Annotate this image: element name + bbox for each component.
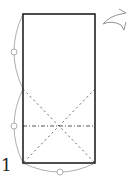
paper-rectangle — [23, 14, 95, 163]
origami-diagram — [0, 0, 129, 180]
equal-mark-circle-icon — [11, 49, 17, 55]
turn-over-arrow-icon — [103, 9, 126, 30]
step-number-label: 1 — [1, 155, 12, 175]
equal-mark-circle-icon — [11, 123, 17, 129]
equal-mark-circle-icon — [57, 169, 63, 175]
